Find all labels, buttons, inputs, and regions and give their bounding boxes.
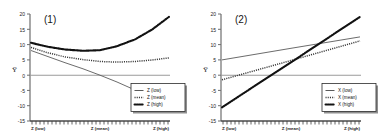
x-tick-label: Z (mean) <box>282 126 301 131</box>
y-tick-label: -15 <box>18 118 25 124</box>
y-axis-title: Y̅ <box>12 66 17 74</box>
y-tick-label: -5 <box>212 88 217 94</box>
y-tick-label: 10 <box>19 42 25 48</box>
y-tick-label: 15 <box>210 27 216 33</box>
y-tick-label: 15 <box>19 27 25 33</box>
chart-panel-1: 20 15 10 5 0 -5 -10 -15 Y̅ (1) Z (low) Z… <box>0 0 191 135</box>
panel-label: (1) <box>44 14 56 25</box>
legend-label: Z (mean) <box>147 95 166 100</box>
panel-1-svg: 20 15 10 5 0 -5 -10 -15 Y̅ (1) Z (low) Z… <box>0 0 191 135</box>
x-tick-label: Z (low) <box>31 126 46 131</box>
x-tick-label: Z (low) <box>222 126 237 131</box>
y-tick-label: -10 <box>209 103 216 109</box>
y-axis-title: Y̅ <box>203 66 208 74</box>
x-axis-minor-ticks <box>223 121 359 125</box>
y-tick-label: 20 <box>210 11 216 17</box>
y-tick-label: -5 <box>21 88 26 94</box>
chart-panel-2: 20 15 10 5 0 -5 -10 -15 Y̅ (2) Z (low) Z… <box>191 0 382 135</box>
y-tick-label: 5 <box>22 57 25 63</box>
x-tick-label: Z (mean) <box>91 126 110 131</box>
y-tick-label: -10 <box>18 103 25 109</box>
y-tick-label: -15 <box>209 118 216 124</box>
series-line-x-low <box>222 37 360 60</box>
y-tick-label: 0 <box>22 73 25 79</box>
interaction-plot-figure: 20 15 10 5 0 -5 -10 -15 Y̅ (1) Z (low) Z… <box>0 0 383 135</box>
legend-label: X (low) <box>338 88 353 93</box>
series-line-x-mean <box>222 41 360 80</box>
legend-label: X (mean) <box>338 95 357 100</box>
y-tick-label: 20 <box>19 11 25 17</box>
legend-label: Z (high) <box>147 102 163 107</box>
x-tick-label: Z (high) <box>344 126 361 131</box>
legend-label: Z (low) <box>147 88 162 93</box>
y-tick-label: 10 <box>210 42 216 48</box>
legend-label: X (high) <box>338 102 355 107</box>
y-tick-label: 5 <box>213 57 216 63</box>
y-tick-label: 0 <box>213 73 216 79</box>
panel-2-svg: 20 15 10 5 0 -5 -10 -15 Y̅ (2) Z (low) Z… <box>191 0 383 135</box>
panel-label: (2) <box>235 14 247 25</box>
x-tick-label: Z (high) <box>153 126 170 131</box>
